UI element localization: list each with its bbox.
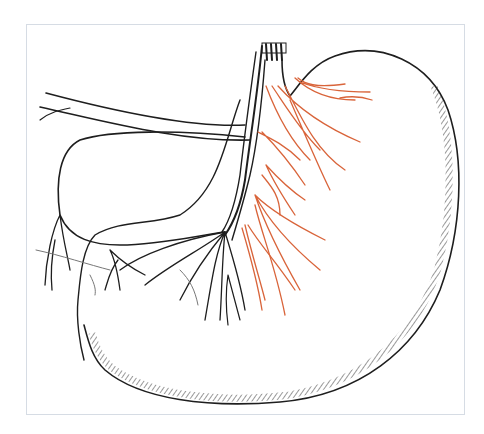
esophagus bbox=[262, 43, 286, 60]
stomach-outline bbox=[84, 51, 459, 404]
stomach-nerve-illustration bbox=[0, 0, 484, 434]
orange-nerve-branches bbox=[242, 78, 372, 315]
vagal-nerve-trunks bbox=[36, 46, 262, 360]
